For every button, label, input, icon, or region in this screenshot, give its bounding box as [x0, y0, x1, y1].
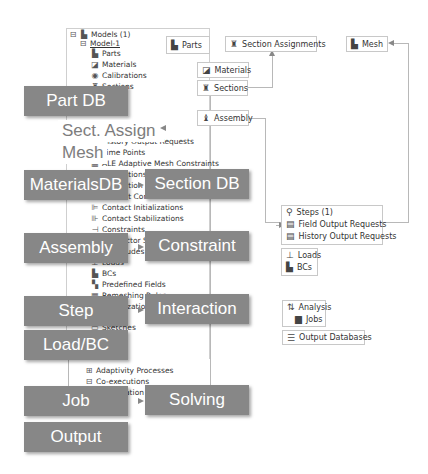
connector-sections-to-sa: [248, 87, 272, 88]
calibration-icon: ◉: [91, 72, 99, 80]
contact-init-icon: ⊫: [91, 204, 99, 212]
connector-sa-up: [272, 52, 273, 88]
mesh-icon: ▙: [351, 39, 358, 49]
node-materials[interactable]: ◪Materials: [197, 62, 249, 78]
section-icon: ♜: [230, 39, 238, 49]
arrow-left-icon: [160, 125, 166, 131]
tree-item-bcs[interactable]: ▙BCs: [91, 269, 116, 278]
part-icon: ▙: [91, 50, 99, 58]
arrow-right-icon: [138, 398, 144, 404]
group-loads: ⊥Loads ▙BCs: [281, 248, 318, 276]
part-icon: ▙: [171, 40, 178, 50]
tree-item-predefined[interactable]: ▚Predefined Fields: [91, 280, 166, 289]
group-steps: ⚲Steps (1) ▤Field Output Requests ▤Histo…: [281, 205, 383, 245]
load-icon: ⊥: [286, 250, 294, 260]
jobs-icon: ▆: [295, 314, 302, 324]
tree-item-ale[interactable]: ▦ALE Adaptive Mesh Constraints: [91, 159, 219, 168]
node-bcs[interactable]: ▙BCs: [282, 261, 317, 273]
label-mesh: Mesh: [58, 142, 107, 164]
label-constraint: Constraint: [145, 231, 249, 261]
label-materials-db: MaterialsDB: [24, 170, 128, 200]
label-solving: Solving: [145, 385, 249, 415]
bc-icon: ▙: [286, 262, 293, 272]
group-analysis: ⇅Analysis ▆Jobs: [282, 300, 326, 327]
node-parts[interactable]: ▙Parts: [166, 36, 210, 54]
predefined-field-icon: ▚: [91, 281, 99, 289]
tree-item-coexecutions[interactable]: ⊟Co-executions: [85, 377, 149, 386]
tree-item-contact-stab[interactable]: ⊪Contact Stabilizations: [91, 214, 184, 223]
steps-icon: ⚲: [286, 207, 293, 217]
label-load-bc: Load/BC: [24, 330, 128, 360]
analysis-icon: ⇅: [287, 302, 295, 312]
node-sections[interactable]: ♜Sections: [197, 80, 248, 96]
label-sect-assign: Sect. Assign: [58, 120, 164, 142]
connector-mesh-down: [408, 43, 409, 223]
label-job: Job: [24, 386, 128, 416]
tree-item-calibrations[interactable]: ◉Calibrations: [91, 71, 147, 80]
collapse-icon[interactable]: ⊟: [69, 31, 77, 39]
connector-mesh-right: [392, 43, 408, 44]
field-output-icon: ▤: [286, 219, 295, 229]
tree-model-1[interactable]: ⊟ Model-1: [79, 39, 120, 48]
node-steps[interactable]: ⚲Steps (1): [282, 206, 382, 218]
tree-item-materials[interactable]: ◪Materials: [91, 60, 136, 69]
material-icon: ◪: [91, 61, 99, 69]
node-analysis[interactable]: ⇅Analysis: [283, 301, 325, 313]
adaptivity-icon: ⊞: [85, 367, 93, 375]
connector-assembly-down: [265, 118, 266, 222]
assembly-icon: ♝: [202, 113, 210, 123]
node-output-databases[interactable]: ☰Output Databases: [282, 330, 365, 345]
node-loads[interactable]: ⊥Loads: [282, 249, 317, 261]
node-jobs[interactable]: ▆Jobs: [283, 313, 325, 325]
label-section-db: Section DB: [145, 169, 249, 199]
section-icon: ♜: [202, 83, 210, 93]
tree-root-models[interactable]: ⊟ ▙ Models (1): [69, 30, 130, 39]
node-history-output[interactable]: ▤History Output Requests: [282, 230, 382, 242]
label-part-db: Part DB: [24, 86, 128, 116]
coexecution-icon: ⊟: [85, 378, 93, 386]
arrow-right-icon: [138, 182, 144, 188]
label-assembly: Assembly: [24, 233, 128, 263]
tree-item-adaptivity[interactable]: ⊞Adaptivity Processes: [85, 366, 173, 375]
node-section-assignments[interactable]: ♜Section Assignments: [225, 36, 317, 52]
tree-item-parts[interactable]: ▙Parts: [91, 49, 121, 58]
material-icon: ◪: [202, 65, 211, 75]
collapse-icon[interactable]: ⊟: [79, 40, 87, 48]
label-interaction: Interaction: [145, 294, 249, 324]
label-output: Output: [24, 422, 128, 452]
node-field-output[interactable]: ▤Field Output Requests: [282, 218, 382, 230]
label-step: Step: [24, 296, 128, 326]
contact-stab-icon: ⊪: [91, 215, 99, 223]
arrow-left-icon: [388, 40, 394, 46]
bc-icon: ▙: [91, 270, 99, 278]
models-icon: ▙: [80, 31, 88, 39]
node-mesh[interactable]: ▙Mesh: [346, 36, 388, 52]
arrow-right-icon: [138, 244, 144, 250]
history-output-icon: ▤: [286, 231, 295, 241]
tree-item-contact-init[interactable]: ⊫Contact Initializations: [91, 203, 183, 212]
arrow-right-icon: [138, 307, 144, 313]
node-assembly[interactable]: ♝Assembly: [197, 110, 249, 126]
database-icon: ☰: [287, 333, 295, 343]
